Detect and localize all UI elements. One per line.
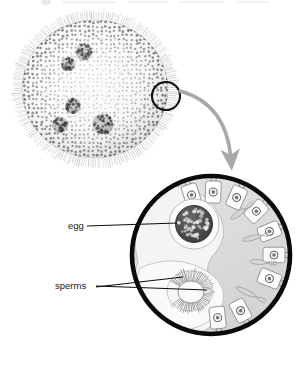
label-egg-text: egg: [68, 220, 84, 231]
sperm-packet-core: [178, 281, 204, 303]
magnify-arrow: [180, 91, 231, 160]
cropped-header-fragment: [41, 0, 270, 5]
egg-structure: [169, 199, 219, 249]
figure-root: egg sperms: [0, 0, 308, 366]
magnified-detail: [132, 165, 301, 346]
colony-body: [22, 20, 168, 158]
volvox-figure: egg sperms: [0, 0, 308, 366]
label-sperms-text: sperms: [55, 280, 86, 291]
